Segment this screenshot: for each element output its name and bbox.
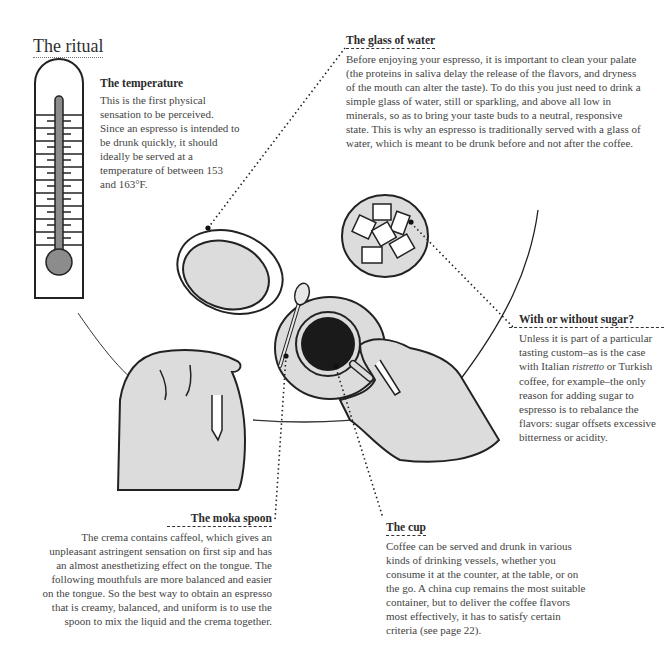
- cup-section: The cup Coffee can be served and drunk i…: [386, 520, 586, 637]
- right-hand-icon: [340, 339, 499, 462]
- spoon-heading: The moka spoon: [167, 511, 272, 527]
- spoon-section: The moka spoon The crema contains caffeo…: [40, 511, 272, 628]
- water-section: The glass of water Before enjoying your …: [346, 33, 646, 150]
- sugar-heading: With or without sugar?: [509, 312, 664, 328]
- cup-body: Coffee can be served and drunk in variou…: [386, 539, 586, 637]
- page-title: The ritual: [33, 36, 103, 58]
- water-body: Before enjoying your espresso, it is imp…: [346, 52, 646, 150]
- thermometer-icon: [35, 59, 83, 298]
- spoon-body: The crema contains caffeol, which gives …: [40, 530, 272, 628]
- sugar-body: Unless it is part of a particular tastin…: [519, 331, 664, 444]
- temperature-heading: The temperature: [100, 76, 240, 90]
- left-hand-icon: [118, 350, 245, 490]
- water-glass-icon: [166, 216, 295, 328]
- temperature-section: The temperature This is the first physic…: [100, 76, 240, 191]
- sugar-body-italic: ristretto: [572, 361, 604, 372]
- sugar-body-text-end: or Turkish coffee, for example–the only …: [519, 360, 656, 443]
- cup-heading: The cup: [386, 520, 426, 536]
- sugar-section: With or without sugar? Unless it is part…: [519, 312, 664, 444]
- water-heading: The glass of water: [346, 33, 435, 49]
- temperature-body: This is the first physical sensation to …: [100, 93, 240, 191]
- sugar-bowl-icon: [342, 195, 428, 277]
